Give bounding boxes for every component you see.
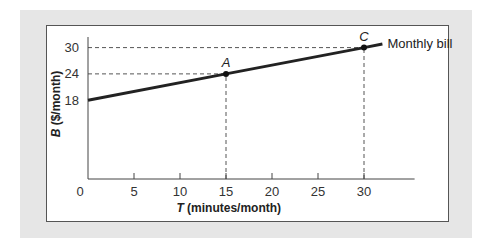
y-ticks: 182430 xyxy=(65,40,79,108)
x-tick-label: 25 xyxy=(311,184,325,199)
chart: 051015202530 182430 AC T (minutes/month)… xyxy=(0,0,485,244)
x-tick-label: 0 xyxy=(76,184,83,199)
x-axis-unit: (minutes/month) xyxy=(184,201,281,215)
y-tick-label: 30 xyxy=(65,40,79,55)
y-axis-unit: ($/month) xyxy=(49,71,63,129)
y-tick-label: 18 xyxy=(65,93,79,108)
x-tick-label: 20 xyxy=(265,184,279,199)
point-label: A xyxy=(221,55,231,70)
y-tick-label: 24 xyxy=(65,66,79,81)
x-tick-label: 10 xyxy=(173,184,187,199)
y-axis-var: B xyxy=(49,128,63,137)
point-marker xyxy=(223,71,229,77)
x-axis-title: T (minutes/month) xyxy=(176,201,281,215)
series-label: Monthly bill xyxy=(387,36,452,51)
x-tick-label: 30 xyxy=(357,184,371,199)
x-ticks: 051015202530 xyxy=(76,173,371,199)
point-marker xyxy=(361,45,367,51)
y-axis-title: B ($/month) xyxy=(49,71,63,138)
point-label: C xyxy=(359,29,369,44)
x-tick-label: 5 xyxy=(130,184,137,199)
series-group xyxy=(88,44,382,100)
series-line xyxy=(88,44,382,100)
x-tick-label: 15 xyxy=(219,184,233,199)
